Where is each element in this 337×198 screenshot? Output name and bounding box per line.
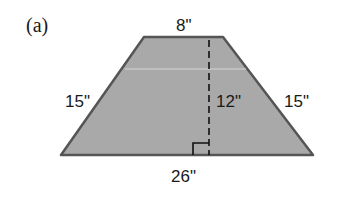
figure-label: (a) <box>26 14 48 37</box>
top-base-label: 8" <box>176 16 192 35</box>
left-side-label: 15" <box>65 92 90 111</box>
height-label: 12" <box>216 92 241 111</box>
bottom-base-label: 26" <box>171 167 196 186</box>
trapezoid-shape <box>61 37 313 155</box>
trapezoid-diagram: (a) 8" 15" 12" 15" 26" <box>0 0 337 198</box>
right-side-label: 15" <box>284 92 309 111</box>
